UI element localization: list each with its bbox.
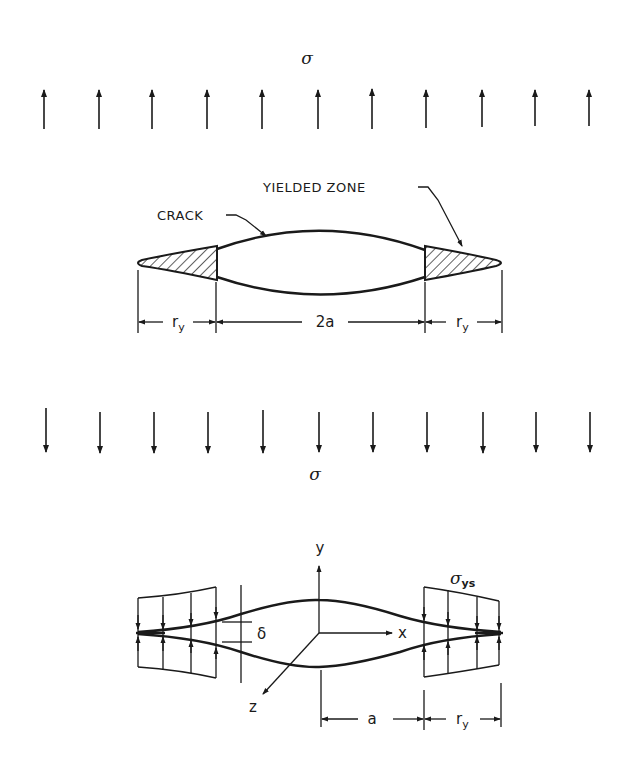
bottom-dimensions: a ry [321, 670, 501, 731]
bottom-panel: y x z [136, 539, 503, 731]
crack-lower-profile [138, 634, 501, 667]
right-yield-stress-block: σys [424, 568, 499, 677]
delta-label: δ [257, 625, 266, 643]
crack-lower-face [217, 277, 425, 295]
y-axis-label: y [316, 539, 325, 557]
x-axis-label: x [398, 624, 407, 642]
crack-length-label: 2a [316, 313, 335, 331]
tension-arrows-down [46, 408, 590, 453]
top-dimensions: ry 2a ry [138, 270, 502, 334]
applied-stress-top-label: σ [301, 48, 313, 68]
left-ry-label: ry [172, 313, 185, 334]
yielded-zone-label: YIELDED ZONE [262, 180, 366, 195]
dugdale-crack-diagram: σ YIELDED ZONE CRACK [0, 0, 627, 764]
plastic-zone-label: ry [456, 710, 469, 731]
crack-label: CRACK [157, 208, 203, 223]
yielded-zone-leader [418, 187, 462, 246]
right-yielded-zone [425, 246, 501, 280]
yield-stress-label: σys [450, 568, 476, 590]
crack-opening-displacement: δ [222, 585, 266, 683]
crack-leader [226, 215, 266, 236]
right-ry-label: ry [456, 313, 469, 334]
z-axis-arrow [263, 633, 319, 694]
top-panel: σ YIELDED ZONE CRACK [44, 48, 590, 484]
applied-stress-bottom-label: σ [309, 464, 321, 484]
z-axis-label: z [249, 698, 257, 716]
left-yielded-zone [138, 246, 217, 280]
crack-upper-face [217, 231, 425, 250]
half-crack-length-label: a [367, 710, 376, 728]
tension-arrows-up [44, 89, 589, 129]
